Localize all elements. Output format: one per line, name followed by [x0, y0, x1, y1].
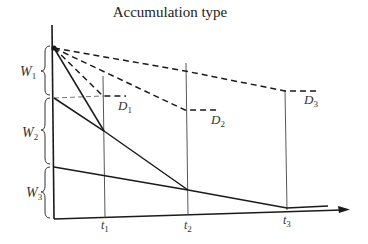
label-d3: D3 [303, 92, 318, 109]
label-t2: t2 [184, 218, 192, 234]
label-d1: D1 [117, 98, 132, 115]
brace-w2 [41, 98, 50, 164]
dashed-line-d2 [54, 48, 218, 110]
x-axis-arrow-icon [338, 206, 350, 213]
label-t3: t3 [283, 213, 291, 229]
x-axis [54, 210, 342, 219]
label-t1: t1 [101, 218, 109, 234]
label-w3: W3 [26, 185, 43, 202]
t2-vertical-line [186, 63, 188, 215]
brace-w1 [41, 46, 50, 95]
t3-vertical-line [285, 90, 287, 210]
brace-w3 [41, 167, 50, 218]
dashed-line-d1 [54, 48, 126, 96]
label-w1: W1 [20, 64, 36, 81]
y-axis [52, 25, 54, 219]
label-d2: D2 [210, 112, 225, 129]
t1-vertical-line [103, 76, 105, 218]
label-w2: W2 [22, 125, 38, 142]
solid-line-w1 [54, 48, 104, 131]
w1-level-dashed-line [54, 96, 103, 98]
accumulation-diagram: W1 W2 W3 D1 D2 D3 t1 t2 t3 [0, 0, 368, 244]
